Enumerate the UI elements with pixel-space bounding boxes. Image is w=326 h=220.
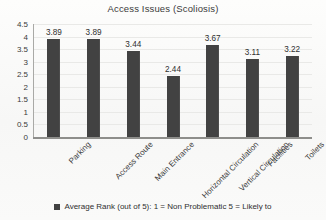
x-axis-tick-label: Parking bbox=[67, 140, 93, 166]
x-axis-tick-label: Access Route bbox=[113, 140, 154, 181]
bar-value-label: 3.44 bbox=[125, 40, 141, 49]
bar-value-label: 3.11 bbox=[245, 48, 260, 57]
bar-value-label: 3.89 bbox=[86, 28, 102, 37]
bar-value-label: 2.44 bbox=[165, 65, 181, 74]
legend-label: Average Rank (out of 5): 1 = Non Problem… bbox=[64, 202, 271, 211]
chart-legend: Average Rank (out of 5): 1 = Non Problem… bbox=[0, 202, 326, 211]
bar-value-label: 3.89 bbox=[46, 28, 62, 37]
x-axis-tick-label: Main Entrance bbox=[153, 140, 196, 183]
bar-value-label: 3.67 bbox=[205, 34, 221, 43]
x-axis-tick-label: Horizontal Circulation bbox=[200, 140, 260, 200]
bar-value-label: 3.22 bbox=[284, 45, 300, 54]
x-axis: ParkingAccess RouteMain EntranceHorizont… bbox=[0, 137, 326, 197]
legend-swatch-icon bbox=[54, 204, 60, 210]
chart-container: Access Issues (Scoliosis) 4.543.532.521.… bbox=[0, 0, 326, 220]
x-axis-tick-label: Toilets bbox=[304, 140, 326, 162]
